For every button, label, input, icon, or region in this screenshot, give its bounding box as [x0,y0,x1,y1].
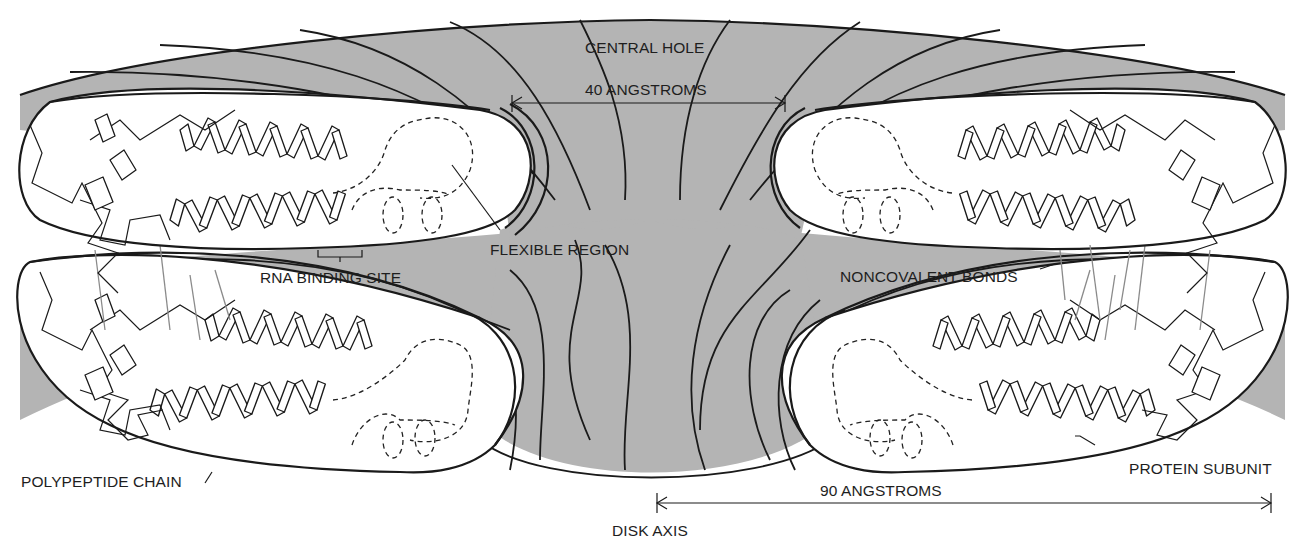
label-disk-axis: DISK AXIS [612,523,688,539]
label-polypeptide-chain: POLYPEPTIDE CHAIN [21,474,182,490]
label-flexible-region: FLEXIBLE REGION [490,242,629,258]
label-central-hole: CENTRAL HOLE [585,40,705,56]
measurement-90-angstroms [657,493,1271,513]
label-90-angstroms: 90 ANGSTROMS [820,483,942,499]
label-rna-binding-site: RNA BINDING SITE [260,270,401,286]
label-noncovalent-bonds: NONCOVALENT BONDS [840,269,1018,285]
label-40-angstroms: 40 ANGSTROMS [585,82,707,98]
protein-disk-diagram: CENTRAL HOLE 40 ANGSTROMS FLEXIBLE REGIO… [0,0,1305,554]
label-protein-subunit: PROTEIN SUBUNIT [1129,461,1272,477]
